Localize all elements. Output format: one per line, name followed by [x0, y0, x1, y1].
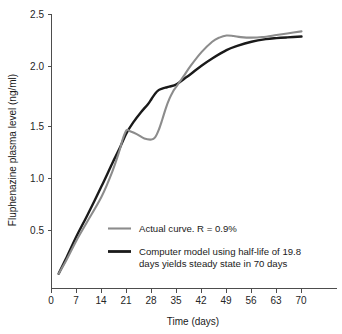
legend-label-computer-model-line2: days yields steady state in 70 days [139, 258, 287, 269]
chart-legend: Actual curve. R = 0.9% Computer model us… [108, 223, 301, 269]
x-tick-label-7: 7 [73, 295, 79, 306]
chart-container: 0.5 1.0 1.5 2.0 2.5 0 7 14 21 28 35 42 4… [0, 0, 342, 334]
line-chart: 0.5 1.0 1.5 2.0 2.5 0 7 14 21 28 35 42 4… [0, 0, 342, 334]
y-tick-label-1.5: 1.5 [30, 121, 44, 132]
x-tick-label-56: 56 [245, 295, 257, 306]
x-tick-label-35: 35 [170, 295, 182, 306]
x-tick-label-14: 14 [95, 295, 107, 306]
x-tick-label-21: 21 [120, 295, 132, 306]
y-axis-ticks [48, 15, 52, 231]
legend-label-actual-curve: Actual curve. R = 0.9% [139, 223, 237, 234]
y-tick-label-1.0: 1.0 [30, 173, 44, 184]
x-axis-title: Time (days) [167, 316, 219, 327]
x-tick-label-63: 63 [270, 295, 282, 306]
x-axis-ticks [52, 289, 302, 293]
series-line-actual-curve [59, 31, 302, 273]
legend-label-computer-model-line1: Computer model using half-life of 19.8 [139, 246, 301, 257]
x-tick-label-0: 0 [48, 295, 54, 306]
x-tick-label-28: 28 [145, 295, 157, 306]
x-tick-label-42: 42 [195, 295, 207, 306]
x-tick-label-49: 49 [220, 295, 232, 306]
y-tick-label-2.0: 2.0 [30, 61, 44, 72]
y-tick-label-2.5: 2.5 [30, 9, 44, 20]
series-line-computer-model [59, 37, 302, 274]
x-tick-label-70: 70 [295, 295, 307, 306]
y-tick-label-0.5: 0.5 [30, 225, 44, 236]
y-axis-title: Fluphenazine plasma level (ng/ml) [7, 74, 18, 226]
